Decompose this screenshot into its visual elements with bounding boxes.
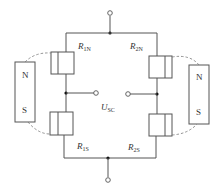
left-flux-bottom: [28, 122, 50, 134]
left-flux-top: [25, 53, 51, 62]
right-magnet-north: N: [196, 72, 203, 82]
left-magnet-south: S: [22, 105, 27, 115]
right-flux-top: [172, 56, 199, 65]
resistor-r2n: [149, 56, 172, 78]
label-r2n: R2N: [129, 41, 144, 52]
right-flux-bottom: [172, 124, 197, 135]
left-output-terminal: [94, 91, 99, 96]
right-output-terminal: [126, 92, 131, 97]
bridge-circuit-diagram: N S N S R1N R2N R1S R2S USC: [0, 0, 221, 193]
right-magnet-south: S: [196, 107, 201, 117]
resistor-r1n: [51, 52, 74, 74]
left-magnet-north: N: [22, 70, 29, 80]
resistor-r1s: [50, 112, 73, 135]
label-r1n: R1N: [77, 41, 92, 52]
resistor-r2s: [149, 114, 172, 136]
label-output-voltage: USC: [101, 102, 115, 113]
bottom-terminal: [106, 178, 111, 183]
label-r2s: R2S: [127, 142, 140, 153]
label-r1s: R1S: [76, 141, 89, 152]
top-terminal: [108, 11, 113, 16]
